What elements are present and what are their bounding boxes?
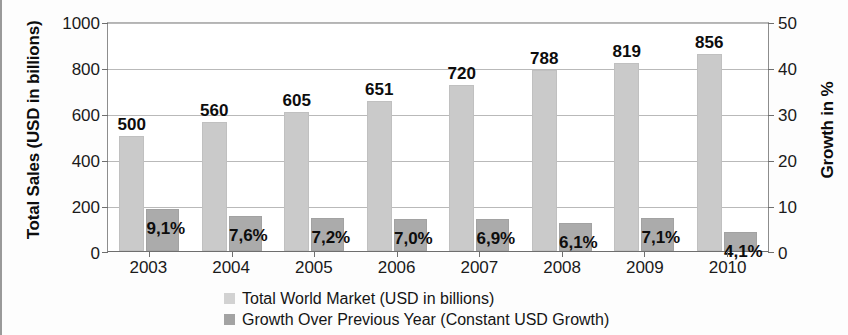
bar-value-label-sales: 560 [200,102,228,119]
bar-growth-over-previous-year: 7,1% [641,218,674,251]
y-tick-right-0: 0 [778,245,787,262]
y-tick-left-400: 400 [72,153,100,170]
y-tick-left-800: 800 [72,61,100,78]
bar-growth-over-previous-year: 7,2% [311,218,344,251]
bar-total-world-market: 605 [284,112,309,251]
bar-group: 8197,1% [603,23,686,251]
bar-group: 6517,0% [356,23,439,251]
x-tickmark [727,251,728,257]
tickmark-right-30 [768,115,774,116]
bar-group: 7886,1% [521,23,604,251]
bar-value-label-growth: 7,6% [229,227,268,244]
bar-value-label-growth: 7,0% [394,230,433,247]
x-axis-label-2004: 2004 [190,258,273,278]
x-tickmark [644,251,645,257]
legend-item-growth-over-previous-year: Growth Over Previous Year (Constant USD … [2,309,848,330]
tickmark-right-10 [768,207,774,208]
bar-value-label-sales: 500 [118,116,146,133]
x-axis-label-2009: 2009 [604,258,687,278]
x-axis-label-2005: 2005 [273,258,356,278]
bar-total-world-market: 788 [532,70,557,251]
bar-growth-over-previous-year: 9,1% [146,209,179,251]
y-tick-right-10: 10 [778,199,797,216]
bar-value-label-growth: 7,1% [641,229,680,246]
tickmark-left-0 [102,252,108,253]
bar-group: 5009,1% [108,23,191,251]
bar-growth-over-previous-year: 6,1% [559,223,592,251]
x-tickmark [149,251,150,257]
bar-group: 7206,9% [438,23,521,251]
tickmark-right-50 [768,23,774,24]
bar-total-world-market: 560 [202,122,227,251]
y-axis-left-ticks: 1000 800 600 400 200 0 [32,0,100,335]
x-axis-label-2007: 2007 [438,258,521,278]
bar-growth-over-previous-year: 6,9% [476,219,509,251]
y-tick-right-30: 30 [778,107,797,124]
tickmark-right-40 [768,69,774,70]
x-tickmark [479,251,480,257]
bar-groups: 5009,1%5607,6%6057,2%6517,0%7206,9%7886,… [108,23,768,251]
chart-legend: Total World Market (USD in billions) Gro… [2,288,848,330]
y-tick-left-200: 200 [72,199,100,216]
tickmark-right-0 [768,252,774,253]
x-tickmark [562,251,563,257]
x-tickmark [397,251,398,257]
y-tick-left-0: 0 [91,245,100,262]
bar-total-world-market: 720 [449,85,474,251]
y-tick-right-40: 40 [778,61,797,78]
bar-group: 6057,2% [273,23,356,251]
x-axis-label-2006: 2006 [355,258,438,278]
bar-total-world-market: 651 [367,101,392,251]
tickmark-right-20 [768,161,774,162]
y-tick-left-1000: 1000 [62,15,100,32]
bar-value-label-growth: 6,1% [559,234,598,251]
bar-growth-over-previous-year: 7,0% [394,219,427,251]
bar-total-world-market: 856 [697,54,722,251]
bar-value-label-sales: 819 [613,43,641,60]
legend-swatch-icon-sales [224,293,235,304]
y-tick-left-600: 600 [72,107,100,124]
x-tickmark [232,251,233,257]
bar-growth-over-previous-year: 7,6% [229,216,262,251]
bar-value-label-growth: 7,2% [311,229,350,246]
bar-group: 8564,1% [686,23,769,251]
x-axis-label-2008: 2008 [521,258,604,278]
bar-chart: Total Sales (USD in billions) Growth in … [0,0,848,335]
plot-area: 5009,1%5607,6%6057,2%6517,0%7206,9%7886,… [107,22,769,252]
x-axis-label-2003: 2003 [107,258,190,278]
bar-growth-over-previous-year: 4,1% [724,232,757,251]
bar-value-label-sales: 605 [283,92,311,109]
y-tick-right-50: 50 [778,15,797,32]
bar-total-world-market: 500 [119,136,144,251]
x-axis-labels: 20032004200520062007200820092010 [107,258,769,278]
bar-value-label-sales: 856 [695,34,723,51]
x-tickmark [314,251,315,257]
bar-value-label-sales: 720 [448,65,476,82]
bar-value-label-growth: 9,1% [146,220,185,237]
y-axis-right-ticks: 50 40 30 20 10 0 [778,0,838,335]
bar-value-label-sales: 788 [530,50,558,67]
bar-total-world-market: 819 [614,63,639,251]
x-axis-label-2010: 2010 [686,258,769,278]
bar-value-label-sales: 651 [365,81,393,98]
legend-label-growth: Growth Over Previous Year (Constant USD … [242,311,609,329]
bar-value-label-growth: 6,9% [476,230,515,247]
y-tick-right-20: 20 [778,153,797,170]
legend-swatch-icon-growth [224,314,235,325]
legend-item-total-world-market: Total World Market (USD in billions) [2,288,848,309]
bar-group: 5607,6% [191,23,274,251]
legend-label-sales: Total World Market (USD in billions) [242,290,494,308]
